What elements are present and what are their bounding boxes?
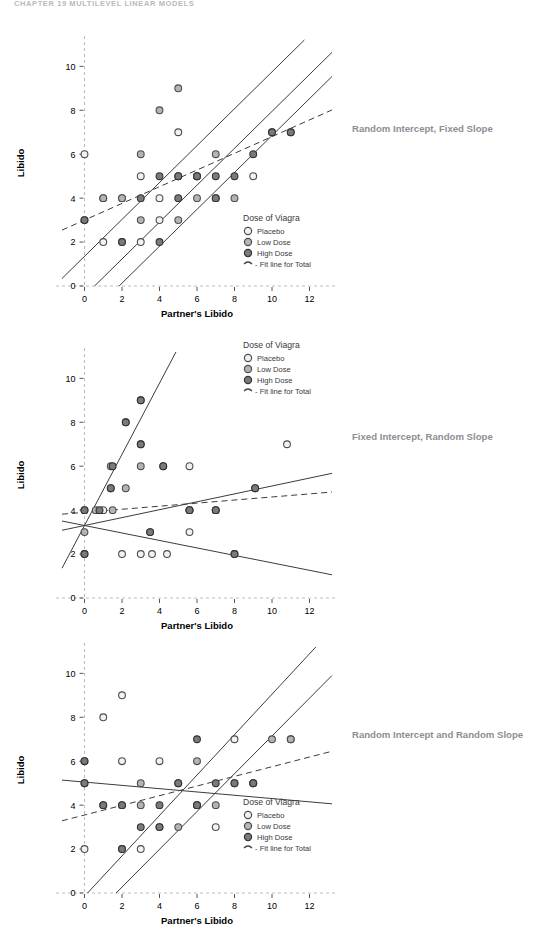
svg-text:6: 6 — [194, 901, 199, 911]
svg-text:2: 2 — [70, 237, 75, 247]
svg-text:Partner's Libido: Partner's Libido — [161, 915, 233, 925]
chart-panel-random-intercept-fixed-slope: 0246810024681012Partner's LibidoLibidoDo… — [0, 18, 549, 318]
svg-text:- Fit line for Total: - Fit line for Total — [255, 844, 311, 853]
data-point — [194, 736, 201, 743]
data-point — [137, 551, 144, 558]
svg-text:4: 4 — [157, 901, 162, 911]
data-point — [156, 107, 163, 114]
svg-text:8: 8 — [232, 901, 237, 911]
svg-text:0: 0 — [82, 606, 87, 616]
svg-text:2: 2 — [119, 901, 124, 911]
data-point — [160, 463, 167, 470]
data-point — [81, 758, 88, 765]
data-point — [137, 239, 144, 246]
data-point — [81, 846, 88, 853]
group-regression-line — [88, 647, 316, 893]
svg-text:Libido: Libido — [15, 149, 26, 178]
data-point — [81, 529, 88, 536]
data-point — [119, 239, 126, 246]
chapter-header: CHAPTER 19 MULTILEVEL LINEAR MODELS — [14, 0, 354, 8]
data-point — [156, 217, 163, 224]
data-point — [186, 463, 193, 470]
svg-text:6: 6 — [194, 606, 199, 616]
data-point — [156, 802, 163, 809]
data-point — [137, 463, 144, 470]
data-point — [231, 780, 238, 787]
data-point — [137, 824, 144, 831]
svg-text:4: 4 — [70, 506, 75, 516]
data-point — [194, 173, 201, 180]
data-point — [186, 507, 193, 514]
data-point — [269, 129, 276, 136]
legend: Dose of ViagraPlaceboLow DoseHigh Dose- … — [243, 213, 311, 269]
data-point — [212, 195, 219, 202]
annotation-panel-3: Random Intercept and Random Slope — [352, 728, 549, 741]
data-point — [137, 195, 144, 202]
data-point — [156, 824, 163, 831]
data-point — [175, 129, 182, 136]
svg-text:High Dose: High Dose — [257, 249, 292, 258]
svg-text:0: 0 — [70, 888, 75, 898]
data-point — [81, 217, 88, 224]
data-point — [250, 173, 257, 180]
svg-text:2: 2 — [70, 844, 75, 854]
data-point — [137, 217, 144, 224]
data-point — [100, 195, 107, 202]
data-point — [119, 758, 126, 765]
data-point — [100, 714, 107, 721]
svg-text:Low Dose: Low Dose — [257, 365, 291, 374]
svg-text:High Dose: High Dose — [257, 833, 292, 842]
data-point — [137, 151, 144, 158]
data-point — [122, 419, 129, 426]
svg-text:Partner's Libido: Partner's Libido — [161, 308, 233, 318]
svg-text:Placebo: Placebo — [257, 811, 284, 820]
data-point — [156, 173, 163, 180]
svg-text:Low Dose: Low Dose — [257, 238, 291, 247]
svg-text:4: 4 — [70, 194, 75, 204]
svg-text:6: 6 — [194, 294, 199, 304]
svg-text:- Fit line for Total: - Fit line for Total — [255, 260, 311, 269]
plot-area: 0246810024681012Partner's LibidoLibidoDo… — [0, 625, 549, 925]
svg-text:8: 8 — [232, 294, 237, 304]
data-point — [231, 551, 238, 558]
data-point — [156, 239, 163, 246]
svg-text:8: 8 — [70, 713, 75, 723]
data-point — [212, 824, 219, 831]
svg-text:Placebo: Placebo — [257, 227, 284, 236]
data-point — [175, 824, 182, 831]
svg-text:10: 10 — [267, 606, 277, 616]
data-point — [137, 441, 144, 448]
data-point — [186, 529, 193, 536]
group-regression-line — [62, 521, 332, 575]
svg-text:10: 10 — [267, 294, 277, 304]
data-point — [194, 758, 201, 765]
svg-text:12: 12 — [304, 606, 314, 616]
svg-text:Dose of Viagra: Dose of Viagra — [243, 797, 300, 807]
data-point — [252, 485, 259, 492]
svg-text:Dose of Viagra: Dose of Viagra — [243, 213, 300, 223]
data-point — [175, 85, 182, 92]
chart-panel-fixed-intercept-random-slope: 0246810024681012Partner's LibidoLibidoDo… — [0, 330, 549, 630]
data-point — [175, 173, 182, 180]
data-point — [212, 507, 219, 514]
data-point — [119, 551, 126, 558]
svg-text:Libido: Libido — [15, 756, 26, 785]
svg-text:8: 8 — [232, 606, 237, 616]
data-point — [212, 802, 219, 809]
svg-text:4: 4 — [157, 606, 162, 616]
data-point — [250, 780, 257, 787]
data-point — [109, 463, 116, 470]
group-regression-line — [116, 676, 332, 893]
svg-text:2: 2 — [119, 294, 124, 304]
svg-text:Low Dose: Low Dose — [257, 822, 291, 831]
data-point — [212, 173, 219, 180]
data-point — [147, 529, 154, 536]
data-point — [81, 780, 88, 787]
svg-text:10: 10 — [65, 62, 75, 72]
group-regression-line — [119, 77, 332, 286]
svg-text:0: 0 — [70, 593, 75, 603]
data-point — [194, 195, 201, 202]
plot-area: 0246810024681012Partner's LibidoLibidoDo… — [0, 330, 549, 630]
svg-text:12: 12 — [304, 901, 314, 911]
svg-text:4: 4 — [70, 801, 75, 811]
